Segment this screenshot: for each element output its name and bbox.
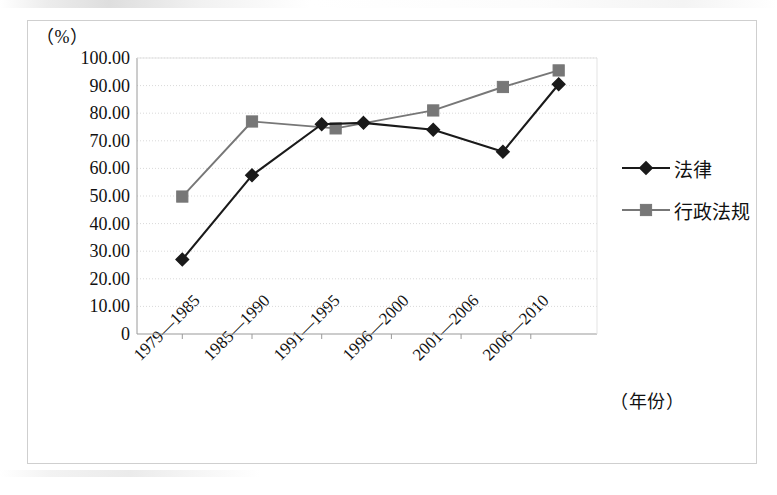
data-point-marker-diamond [427,124,439,136]
legend-marker [620,197,672,223]
data-point-marker-square [497,81,508,92]
line-chart: （%） （年份） 100.0090.0080.0070.0060.0050.00… [0,0,777,495]
data-point-marker-square [177,191,188,202]
data-point-marker-diamond [357,117,369,129]
series-line [182,84,558,259]
data-point-marker-square [640,204,651,215]
plot-area [0,0,777,495]
data-point-marker-diamond [640,162,652,174]
data-point-marker-square [553,65,564,76]
series-regulation [177,65,565,202]
legend-item-label: 行政法规 [674,197,750,224]
series-law [176,78,565,266]
legend-item-label: 法律 [674,155,712,182]
legend-marker [620,155,672,181]
data-point-marker-square [246,116,257,127]
data-point-marker-square [428,105,439,116]
